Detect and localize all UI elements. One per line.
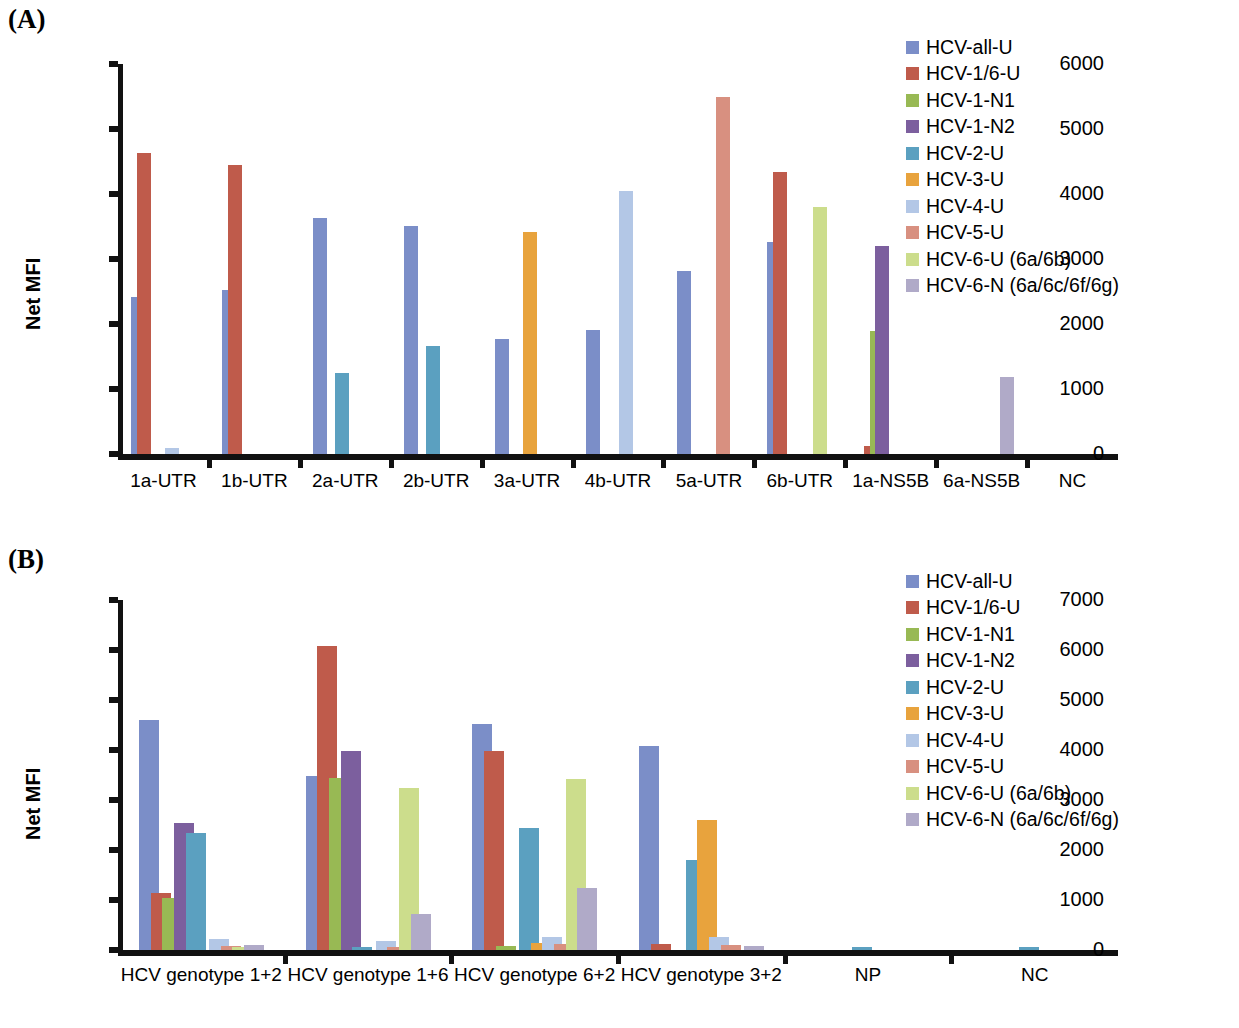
legend-label: HCV-6-U (6a/6b) [926, 784, 1071, 804]
y-tick-mark [109, 947, 118, 953]
bar [404, 226, 418, 454]
bar [697, 820, 717, 950]
legend-label: HCV-5-U [926, 757, 1004, 777]
panel-b: (B) Net MFI 0100020003000400050006000700… [0, 540, 1239, 1028]
x-axis-category-label: 2a-UTR [300, 470, 391, 492]
panel-a-letter: (A) [8, 4, 45, 35]
x-axis-category-label: 4b-UTR [573, 470, 664, 492]
legend-item: HCV-1-N1 [906, 87, 1119, 114]
x-tick-mark [783, 955, 788, 964]
legend-swatch-icon [906, 253, 919, 266]
legend-swatch-icon [906, 760, 919, 773]
bar [523, 232, 537, 454]
x-tick-mark [1025, 459, 1030, 468]
x-tick-mark [661, 459, 666, 468]
x-axis-category-label: HCV genotype 1+6 [285, 964, 452, 986]
bar [411, 914, 431, 951]
legend-item: HCV-5-U [906, 220, 1119, 247]
legend-label: HCV-all-U [926, 38, 1013, 58]
y-tick-label: 2000 [1060, 312, 1105, 335]
y-tick-mark [109, 61, 118, 67]
legend-swatch-icon [906, 787, 919, 800]
bar [716, 97, 730, 455]
panel-a-legend: HCV-all-UHCV-1/6-UHCV-1-N1HCV-1-N2HCV-2-… [906, 34, 1119, 299]
x-tick-mark [571, 459, 576, 468]
legend-label: HCV-4-U [926, 197, 1004, 217]
bar [228, 165, 242, 454]
y-tick-mark [109, 126, 118, 132]
x-axis-category-label: 1a-UTR [118, 470, 209, 492]
x-axis-category-label: 6b-UTR [754, 470, 845, 492]
bar [744, 946, 764, 951]
legend-swatch-icon [906, 734, 919, 747]
bar [484, 751, 504, 951]
bar [496, 946, 516, 950]
legend-label: HCV-3-U [926, 704, 1004, 724]
legend-item: HCV-1-N1 [906, 621, 1119, 648]
panel-b-legend: HCV-all-UHCV-1/6-UHCV-1-N1HCV-1-N2HCV-2-… [906, 568, 1119, 833]
legend-item: HCV-all-U [906, 34, 1119, 61]
y-tick-label: 0 [1093, 442, 1104, 465]
panel-b-letter: (B) [8, 544, 44, 575]
legend-label: HCV-1/6-U [926, 598, 1020, 618]
bar [852, 947, 872, 950]
legend-label: HCV-2-U [926, 144, 1004, 164]
y-tick-mark [109, 386, 118, 392]
legend-item: HCV-4-U [906, 193, 1119, 220]
y-tick-label: 1000 [1060, 377, 1105, 400]
panel-b-y-axis-title: Net MFI [22, 768, 45, 840]
bar [619, 191, 633, 454]
legend-item: HCV-1-N2 [906, 648, 1119, 675]
y-tick-mark [109, 597, 118, 603]
legend-item: HCV-3-U [906, 701, 1119, 728]
legend-label: HCV-1/6-U [926, 64, 1020, 84]
y-tick-label: 2000 [1060, 838, 1105, 861]
x-tick-mark [616, 955, 621, 964]
bar [721, 945, 741, 951]
panel-a-y-axis-title: Net MFI [22, 258, 45, 330]
legend-label: HCV-2-U [926, 678, 1004, 698]
panel-a: (A) Net MFI 0100020003000400050006000 1a… [0, 0, 1239, 520]
legend-item: HCV-6-N (6a/6c/6f/6g) [906, 807, 1119, 834]
y-tick-mark [109, 847, 118, 853]
y-tick-mark [109, 451, 118, 457]
y-tick-mark [109, 747, 118, 753]
x-axis-category-label: 6a-NS5B [936, 470, 1027, 492]
bar [352, 947, 372, 950]
legend-swatch-icon [906, 681, 919, 694]
legend-label: HCV-3-U [926, 170, 1004, 190]
legend-item: HCV-1/6-U [906, 61, 1119, 88]
legend-item: HCV-5-U [906, 754, 1119, 781]
bar [335, 373, 349, 454]
bar [639, 746, 659, 951]
x-axis-category-label: NC [951, 964, 1118, 986]
legend-swatch-icon [906, 147, 919, 160]
x-tick-mark [949, 955, 954, 964]
x-tick-mark [752, 459, 757, 468]
legend-label: HCV-1-N2 [926, 117, 1015, 137]
legend-label: HCV-6-N (6a/6c/6f/6g) [926, 276, 1119, 296]
x-axis-category-label: 3a-UTR [482, 470, 573, 492]
y-tick-label: 1000 [1060, 888, 1105, 911]
x-tick-mark [283, 955, 288, 964]
legend-swatch-icon [906, 575, 919, 588]
legend-swatch-icon [906, 601, 919, 614]
legend-swatch-icon [906, 813, 919, 826]
legend-swatch-icon [906, 628, 919, 641]
legend-item: HCV-4-U [906, 727, 1119, 754]
bar [426, 346, 440, 454]
x-axis-category-label: NP [785, 964, 952, 986]
x-axis-category-label: 1b-UTR [209, 470, 300, 492]
bar [313, 218, 327, 454]
legend-item: HCV-3-U [906, 167, 1119, 194]
legend-label: HCV-5-U [926, 223, 1004, 243]
bar [1000, 377, 1014, 454]
panel-a-x-axis [118, 454, 1118, 460]
legend-swatch-icon [906, 120, 919, 133]
y-tick-mark [109, 191, 118, 197]
x-axis-category-label: NC [1027, 470, 1118, 492]
legend-swatch-icon [906, 279, 919, 292]
bar [137, 153, 151, 454]
x-axis-category-label: HCV genotype 3+2 [618, 964, 785, 986]
legend-label: HCV-1-N2 [926, 651, 1015, 671]
